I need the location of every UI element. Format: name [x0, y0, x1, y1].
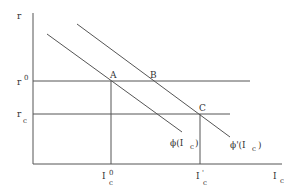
r0-label: r 0 — [17, 74, 28, 87]
svg-text:): ) — [195, 138, 199, 148]
svg-text:I: I — [102, 171, 106, 181]
svg-text:I: I — [273, 171, 277, 181]
svg-text:): ) — [258, 140, 262, 150]
y-axis-label: r — [17, 11, 22, 21]
rc-label: r c — [17, 109, 27, 125]
point-b-label: B — [150, 70, 157, 80]
svg-text:c: c — [190, 143, 194, 151]
svg-text:r: r — [17, 109, 22, 119]
svg-text:I: I — [196, 171, 200, 181]
phi-prime-curve-label: ϕ'(I c ) — [230, 140, 262, 153]
svg-text:0: 0 — [109, 169, 113, 177]
svg-text:0: 0 — [24, 74, 28, 82]
diagram-canvas: r r 0 r c A B C ϕ(I c ) ϕ'(I c ) I 0 c I… — [0, 0, 297, 194]
svg-text:c: c — [252, 145, 256, 153]
ic0-tick-label: I 0 c — [102, 169, 113, 187]
point-a-label: A — [109, 70, 117, 80]
phi-curve-label: ϕ(I c ) — [170, 138, 199, 151]
svg-text:': ' — [202, 169, 204, 177]
x-axis-label: I c — [273, 171, 284, 185]
icprime-tick-label: I ' c — [196, 169, 207, 187]
svg-text:ϕ'(I: ϕ'(I — [230, 140, 246, 150]
phi-curve — [47, 34, 182, 132]
svg-text:c: c — [109, 179, 113, 187]
svg-text:r: r — [17, 77, 22, 87]
svg-text:c: c — [23, 117, 27, 125]
svg-text:ϕ(I: ϕ(I — [170, 138, 184, 148]
svg-text:c: c — [280, 177, 284, 185]
svg-text:c: c — [203, 179, 207, 187]
point-c-label: C — [199, 103, 206, 113]
